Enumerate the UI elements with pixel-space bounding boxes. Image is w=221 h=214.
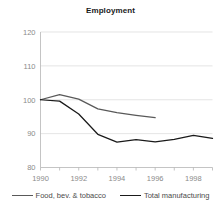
x-tick-label: 1996: [147, 174, 164, 183]
legend-swatch: [120, 195, 141, 196]
x-tick-label: 1990: [32, 174, 49, 183]
plot-area: 8090100110120 19901992199419961998: [0, 0, 221, 214]
series-line-total-manufacturing: [41, 100, 213, 142]
employment-line-chart: Employment 8090100110120 199019921994199…: [0, 0, 221, 214]
legend-entry[interactable]: Total manufacturing: [120, 191, 209, 200]
y-axis-tick-labels: 8090100110120: [23, 28, 36, 173]
y-tick-label: 120: [23, 28, 36, 37]
legend-entry[interactable]: Food, bev. & tobacco: [12, 191, 106, 200]
y-tick-label: 80: [27, 163, 35, 172]
x-axis-tick-labels: 19901992199419961998: [32, 174, 202, 183]
legend-label: Food, bev. & tobacco: [36, 191, 106, 200]
x-tick-label: 1994: [109, 174, 126, 183]
x-tick-label: 1998: [185, 174, 202, 183]
gridlines: [41, 32, 213, 168]
y-tick-label: 110: [24, 62, 36, 71]
x-axis: [41, 168, 213, 171]
series-line-food-bev-tobacco: [41, 95, 156, 118]
x-tick-label: 1992: [70, 174, 87, 183]
chart-legend: Food, bev. & tobaccoTotal manufacturing: [0, 191, 221, 200]
data-series: [41, 95, 213, 142]
legend-swatch: [12, 195, 33, 196]
y-tick-label: 90: [27, 129, 35, 138]
y-tick-label: 100: [23, 96, 36, 105]
legend-label: Total manufacturing: [144, 191, 209, 200]
